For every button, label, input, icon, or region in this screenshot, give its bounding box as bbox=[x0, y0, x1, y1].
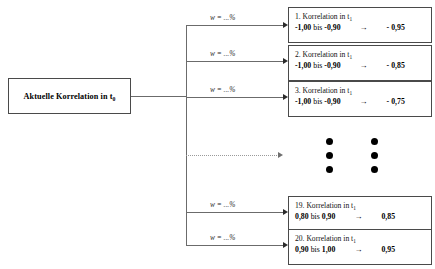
result-box-19-title: 19. Korrelation in t1 bbox=[295, 200, 431, 211]
result-box-19-arrow-icon: → bbox=[335, 211, 381, 223]
result-box-20-range-from: 0,90 bbox=[295, 244, 309, 256]
weight-label-19: w = ...% bbox=[210, 200, 235, 209]
result-box-2-range-to: -0,90 bbox=[324, 60, 340, 72]
flow-diagram: Aktuelle Korrelation in t0 w = ...% w = … bbox=[0, 0, 435, 269]
ellipsis-dot bbox=[371, 152, 378, 159]
branch-line-1 bbox=[186, 25, 284, 26]
weight-label-2: w = ...% bbox=[210, 49, 235, 58]
result-box-3-arrow-icon: → bbox=[341, 96, 387, 108]
branch-line-19 bbox=[186, 212, 284, 213]
source-box: Aktuelle Korrelation in t0 bbox=[8, 78, 131, 114]
ellipsis-dot bbox=[326, 166, 333, 173]
result-box-20: 20. Korrelation in t1 0,90 bis 1,00 → 0,… bbox=[288, 229, 432, 265]
trunk-line bbox=[131, 96, 186, 97]
result-box-19-value: 0,85 bbox=[381, 211, 395, 223]
result-box-19-range-from: 0,80 bbox=[295, 211, 309, 223]
result-box-3: 3. Korrelation in t1 -1,00 bis -0,90 → -… bbox=[288, 81, 432, 117]
result-box-1-value: - 0,95 bbox=[387, 22, 405, 34]
result-box-2: 2. Korrelation in t1 -1,00 bis -0,90 → -… bbox=[288, 45, 432, 81]
result-box-19-detail: 0,80 bis 0,90 → 0,85 bbox=[295, 211, 431, 223]
weight-label-20: w = ...% bbox=[210, 233, 235, 242]
ellipsis-dot bbox=[326, 138, 333, 145]
result-box-19: 19. Korrelation in t1 0,80 bis 0,90 → 0,… bbox=[288, 196, 432, 232]
result-box-3-title: 3. Korrelation in t1 bbox=[295, 85, 431, 96]
result-box-3-value: - 0,75 bbox=[387, 96, 405, 108]
result-box-3-range-from: -1,00 bbox=[295, 96, 311, 108]
branch-line-2 bbox=[186, 61, 284, 62]
result-box-20-arrow-icon: → bbox=[335, 244, 381, 256]
ellipsis-dot bbox=[371, 138, 378, 145]
result-box-2-value: - 0,85 bbox=[387, 60, 405, 72]
result-box-3-bis: bis bbox=[311, 96, 324, 108]
result-box-2-title: 2. Korrelation in t1 bbox=[295, 49, 431, 60]
ellipsis-dot bbox=[326, 152, 333, 159]
result-box-20-bis: bis bbox=[309, 244, 322, 256]
branch-line-3 bbox=[186, 97, 284, 98]
source-box-label: Aktuelle Korrelation in t0 bbox=[24, 92, 116, 101]
result-box-20-detail: 0,90 bis 1,00 → 0,95 bbox=[295, 244, 431, 256]
result-box-1-title: 1. Korrelation in t1 bbox=[295, 11, 431, 22]
result-box-1-detail: -1,00 bis -0,90 → - 0,95 bbox=[295, 22, 431, 34]
ellipsis-dot bbox=[371, 166, 378, 173]
branch-line-20 bbox=[186, 245, 284, 246]
result-box-19-range-to: 0,90 bbox=[322, 211, 336, 223]
result-box-19-bis: bis bbox=[309, 211, 322, 223]
result-box-20-range-to: 1,00 bbox=[322, 244, 336, 256]
branch-line-ellipsis bbox=[186, 155, 279, 156]
weight-label-1: w = ...% bbox=[210, 13, 235, 22]
result-box-1-range-from: -1,00 bbox=[295, 22, 311, 34]
result-box-1: 1. Korrelation in t1 -1,00 bis -0,90 → -… bbox=[288, 7, 432, 43]
result-box-2-arrow-icon: → bbox=[341, 60, 387, 72]
source-box-subscript: 0 bbox=[113, 96, 116, 102]
result-box-2-bis: bis bbox=[311, 60, 324, 72]
result-box-20-value: 0,95 bbox=[381, 244, 395, 256]
result-box-2-detail: -1,00 bis -0,90 → - 0,85 bbox=[295, 60, 431, 72]
weight-label-3: w = ...% bbox=[210, 85, 235, 94]
result-box-3-range-to: -0,90 bbox=[324, 96, 340, 108]
result-box-3-detail: -1,00 bis -0,90 → - 0,75 bbox=[295, 96, 431, 108]
result-box-2-range-from: -1,00 bbox=[295, 60, 311, 72]
result-box-20-title: 20. Korrelation in t1 bbox=[295, 233, 431, 244]
arrow-head-ellipsis bbox=[278, 152, 283, 158]
result-box-1-bis: bis bbox=[311, 22, 324, 34]
result-box-1-arrow-icon: → bbox=[341, 22, 387, 34]
result-box-1-range-to: -0,90 bbox=[324, 22, 340, 34]
